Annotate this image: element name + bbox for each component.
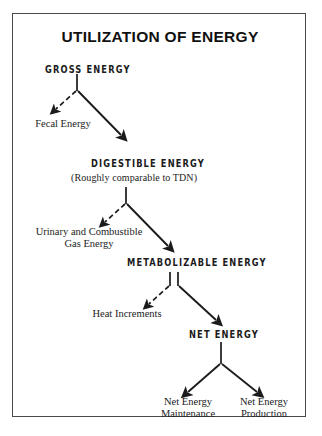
node-urinary-gas-energy: Urinary and Combustible Gas Energy	[27, 226, 151, 250]
node-urinary-gas-energy-line1: Urinary and Combustible	[27, 226, 151, 238]
node-net-energy-production-line2: Production	[212, 408, 316, 420]
edge-digestible-urinary	[105, 204, 125, 222]
node-digestible-energy-subtitle: (Roughly comparable to TDN)	[71, 172, 191, 183]
node-urinary-gas-energy-line2: Gas Energy	[27, 238, 151, 250]
edge-metabolizable-net	[179, 286, 216, 320]
diagram-card: UTILIZATION OF ENERGY GRO	[12, 13, 306, 417]
edge-net-maintenance	[188, 364, 220, 392]
node-net-energy-production-line1: Net Energy	[212, 396, 316, 408]
node-fecal-energy: Fecal Energy	[18, 118, 108, 130]
node-net-energy-production: Net Energy Production	[212, 396, 316, 420]
node-heat-increments: Heat Increments	[75, 308, 179, 320]
edge-gross-fecal	[56, 91, 76, 109]
edge-metabolizable-heat	[149, 286, 169, 304]
node-digestible-energy: DIGESTIBLE ENERGY	[91, 158, 205, 169]
node-net-energy: NET ENERGY	[189, 329, 259, 340]
edge-net-production	[222, 364, 257, 392]
node-metabolizable-energy: METABOLIZABLE ENERGY	[127, 257, 267, 268]
node-gross-energy: GROSS ENERGY	[45, 64, 131, 75]
